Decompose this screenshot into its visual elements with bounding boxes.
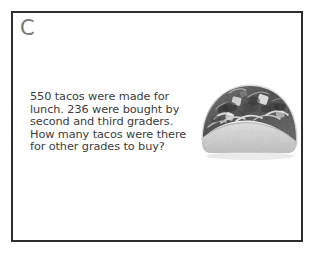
taco-photo-icon (196, 79, 304, 175)
problem-text-line: for other grades to buy? (30, 141, 202, 154)
problem-text-line: second and third graders. (30, 116, 202, 129)
problem-statement-text: 550 tacos were made for lunch. 236 were … (30, 91, 202, 154)
problem-body: 550 tacos were made for lunch. 236 were … (13, 79, 305, 189)
worksheet-problem-card: C 550 tacos were made for lunch. 236 wer… (11, 11, 303, 242)
taco-illustration (196, 79, 304, 175)
problem-text-line: 550 tacos were made for (30, 91, 202, 104)
problem-letter-label: C (20, 18, 35, 39)
